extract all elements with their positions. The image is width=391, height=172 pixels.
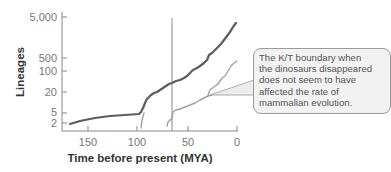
x-tick-labels: 150 100 50 0 xyxy=(79,136,240,148)
callout-pointer xyxy=(210,80,254,95)
x-tick-label: 50 xyxy=(182,136,194,148)
y-tick-label: 2 xyxy=(51,117,57,129)
callout-line: does not seem to have xyxy=(259,74,385,85)
callout-line: affected the rate of xyxy=(259,86,385,97)
y-tick-labels: 5,000 500 100 20 5 2 xyxy=(29,11,57,129)
y-axis-title: Lineages xyxy=(14,47,26,97)
y-tick-label: 20 xyxy=(45,86,57,98)
callout-box: The K/T boundary when the dinosaurs disa… xyxy=(253,48,391,114)
x-ticks xyxy=(88,126,237,131)
x-tick-label: 150 xyxy=(79,136,97,148)
x-tick-label: 100 xyxy=(128,136,146,148)
dark-series xyxy=(70,23,236,124)
x-axis-title: Time before present (MYA) xyxy=(67,152,212,164)
callout-line: The K/T boundary when xyxy=(259,52,385,63)
x-tick-label: 0 xyxy=(234,136,240,148)
callout-line: the dinosaurs disappeared xyxy=(259,63,385,74)
y-tick-label: 500 xyxy=(39,52,57,64)
callout-line: mammalian evolution. xyxy=(259,97,385,108)
y-ticks xyxy=(62,17,67,123)
y-tick-label: 100 xyxy=(39,65,57,77)
y-tick-label: 5,000 xyxy=(29,11,57,23)
